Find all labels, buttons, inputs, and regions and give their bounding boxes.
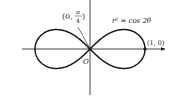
equation-label: r² = cos 2θ — [112, 17, 152, 25]
origin-label: O — [83, 58, 89, 66]
label-paren-close: ) — [82, 12, 85, 21]
point-label-1-0: (1, 0) — [147, 39, 165, 47]
label-pi: π — [75, 8, 81, 15]
lemniscate-diagram: (0, π 4 ) r² = cos 2θ (1, 0) O — [0, 0, 177, 102]
label-paren-open: (0, — [62, 12, 73, 21]
leader-line — [78, 27, 89, 47]
point-1-0 — [143, 47, 146, 50]
origin-point — [88, 47, 91, 50]
label-four: 4 — [76, 17, 80, 24]
